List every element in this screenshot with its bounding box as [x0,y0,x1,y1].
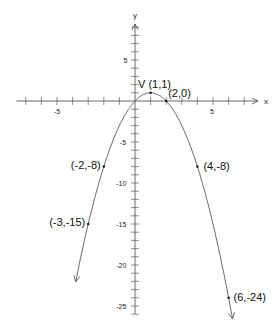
parabola-curve [74,93,234,319]
x-tick-label: -5 [54,108,60,115]
y-tick-label: -5 [120,139,126,146]
data-point [227,297,230,300]
data-point [87,223,90,226]
y-axis-label: y [133,11,137,20]
y-tick-label: 5 [123,57,127,64]
point-label: (2,0) [168,87,191,99]
point-label: (4,-8) [203,160,229,172]
data-point [149,92,152,95]
parabola-graph: x-55y5-5-10-15-20-25 V (1,1)(2,0)(-2,-8)… [0,0,279,335]
axes: x-55y5-5-10-15-20-25 [16,11,268,314]
data-point [165,100,168,103]
y-tick-label: -10 [116,180,126,187]
x-axis-label: x [264,97,268,106]
point-label: (-2,-8) [71,159,101,171]
y-tick-label: -20 [116,262,126,269]
data-point [196,165,199,168]
x-tick-label: 5 [210,108,214,115]
y-tick-label: -15 [116,221,126,228]
y-tick-label: -25 [116,303,126,310]
point-label: (-3,-15) [49,216,85,228]
point-label: (6,-24) [234,291,266,303]
data-point [103,165,106,168]
point-label: V (1,1) [138,78,171,90]
labeled-points: V (1,1)(2,0)(-2,-8)(4,-8)(-3,-15)(6,-24) [49,78,266,303]
parabola-path [76,93,233,319]
